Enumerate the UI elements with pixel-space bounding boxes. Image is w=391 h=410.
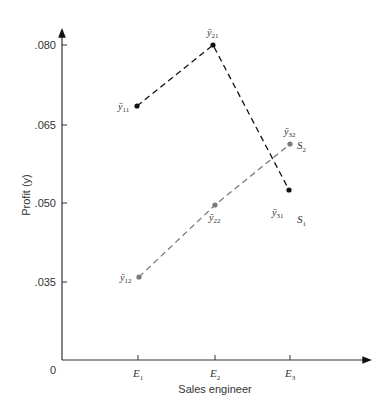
- point-labels: ȳ11 ȳ21 ȳ31 ȳ12 ȳ22 ȳ32 S1 S2: [117, 27, 307, 285]
- point-y12: [136, 274, 141, 279]
- series-label-s1: S1: [297, 213, 307, 228]
- label-y11: ȳ11: [117, 101, 130, 114]
- label-y31: ȳ31: [271, 207, 284, 220]
- y-tick-label: .065: [35, 119, 56, 131]
- x-axis-title: Sales engineer: [178, 383, 252, 395]
- point-y22: [212, 202, 217, 207]
- y-tick-label: .050: [35, 197, 56, 209]
- point-y32: [287, 141, 292, 146]
- y-axis-title: Profit (y): [20, 174, 32, 216]
- origin-label: 0: [50, 364, 56, 376]
- interaction-plot: .080 .065 .050 .035 E1 E2 E3 0 Sales eng…: [0, 0, 391, 410]
- x-tick-label-e1: E1: [132, 367, 144, 382]
- point-y11: [134, 103, 139, 108]
- y-tick-label: .080: [35, 39, 56, 51]
- series-label-s2: S2: [297, 139, 307, 154]
- point-y21: [210, 42, 215, 47]
- series-s1: [134, 42, 291, 192]
- label-y32: ȳ32: [283, 126, 296, 139]
- series-s2: [136, 141, 292, 279]
- x-tick-label-e2: E2: [209, 367, 221, 382]
- x-tick-label-e3: E3: [284, 367, 296, 382]
- y-tick-label: .035: [35, 276, 56, 288]
- label-y22: ȳ22: [208, 212, 221, 225]
- x-ticks: E1 E2 E3: [132, 355, 296, 382]
- point-y31: [286, 187, 291, 192]
- label-y21: ȳ21: [206, 27, 219, 40]
- axes: [62, 30, 370, 360]
- label-y12: ȳ12: [119, 272, 132, 285]
